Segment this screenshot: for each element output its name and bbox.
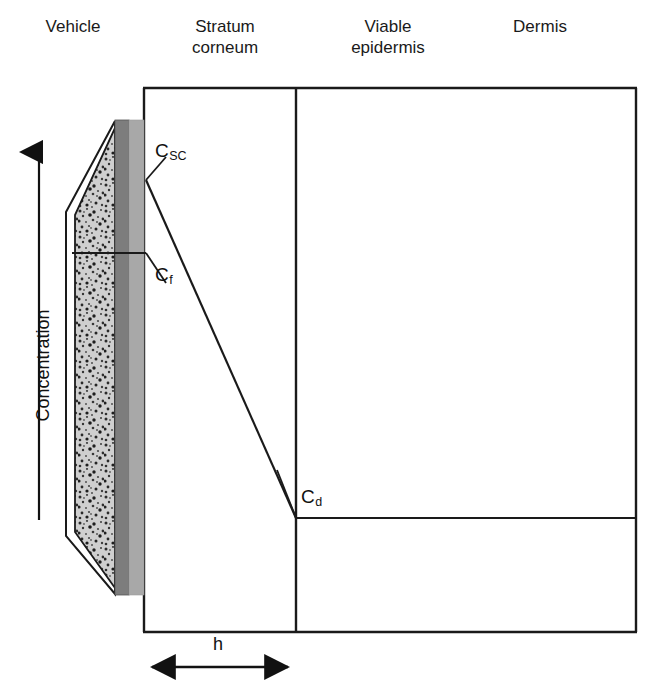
region-label-vehicle: Vehicle <box>18 16 128 37</box>
concentration-label-cd: Cd <box>301 486 322 508</box>
cf-subscript: f <box>169 273 172 287</box>
skin-permeation-diagram: Vehicle Stratum corneum Viable epidermis… <box>0 0 659 696</box>
diagram-canvas <box>0 0 659 696</box>
cf-symbol: C <box>155 264 169 285</box>
region-label-viable-epidermis: Viable epidermis <box>318 16 458 58</box>
cd-symbol: C <box>301 486 315 507</box>
region-label-stratum-corneum: Stratum corneum <box>160 16 290 58</box>
vehicle-patch <box>66 121 115 594</box>
cd-subscript: d <box>315 495 322 509</box>
csc-symbol: C <box>155 140 169 161</box>
thickness-label-h: h <box>178 634 258 655</box>
csc-subscript: SC <box>169 149 186 163</box>
membrane-bars <box>115 120 144 595</box>
label-leader-lines <box>146 157 296 518</box>
concentration-profile <box>72 180 636 518</box>
skin-compartment-frame <box>143 88 637 632</box>
concentration-label-cf: Cf <box>155 264 172 286</box>
adhesive-layer <box>129 120 144 595</box>
gradient-line <box>146 180 296 518</box>
cd-leader <box>277 470 296 518</box>
region-label-dermis: Dermis <box>470 16 610 37</box>
concentration-label-csc: CSC <box>155 140 186 162</box>
rate-controlling-membrane <box>115 120 129 595</box>
y-axis-label: Concentration <box>33 271 54 461</box>
